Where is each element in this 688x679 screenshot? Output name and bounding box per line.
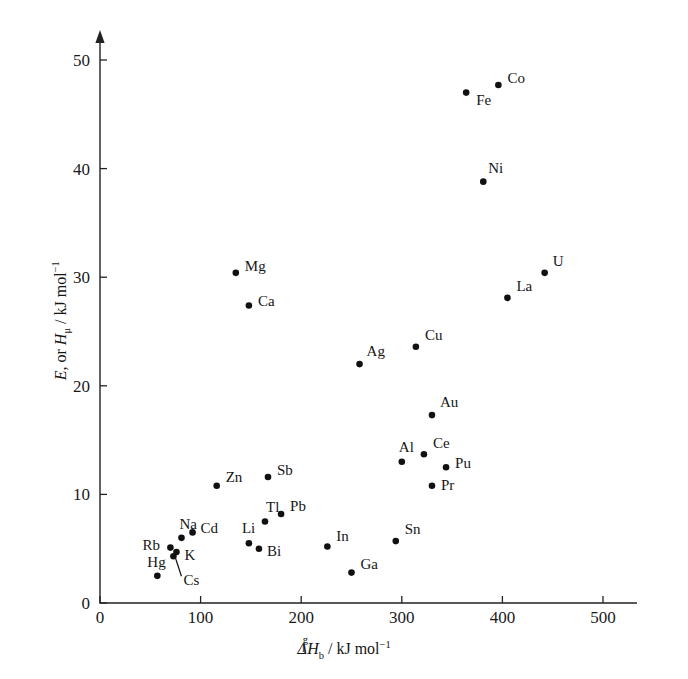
data-points: FeCoNiULaMgCaCuAgAuCeAlPuPrSbZnPbTlCdNaL… bbox=[142, 70, 563, 588]
y-tick-label: 0 bbox=[82, 594, 91, 613]
data-point bbox=[246, 302, 253, 309]
data-point bbox=[246, 540, 253, 547]
data-point-label: U bbox=[553, 253, 564, 269]
data-point-label: Mg bbox=[245, 258, 266, 274]
data-point-label: K bbox=[184, 547, 195, 563]
data-point bbox=[356, 361, 363, 368]
x-tick-label: 100 bbox=[188, 608, 214, 627]
data-point-label: In bbox=[336, 528, 349, 544]
data-point bbox=[262, 518, 269, 525]
y-tick-label: 10 bbox=[73, 485, 90, 504]
label-leader-line bbox=[176, 559, 182, 577]
data-point-label: Ca bbox=[258, 293, 275, 309]
data-point bbox=[265, 474, 272, 481]
x-tick-label: 0 bbox=[96, 608, 105, 627]
data-point bbox=[178, 535, 185, 542]
data-point-label: Li bbox=[242, 520, 255, 536]
y-axis-ticks: 01020304050 bbox=[73, 51, 107, 613]
data-point-label: Fe bbox=[476, 92, 491, 108]
data-point-label: Ag bbox=[367, 343, 386, 359]
data-point bbox=[233, 270, 240, 277]
data-point bbox=[480, 178, 487, 185]
data-point bbox=[463, 89, 470, 96]
data-point-label: Cd bbox=[201, 520, 219, 536]
data-point-label: Ga bbox=[361, 556, 379, 572]
x-tick-label: 400 bbox=[490, 608, 516, 627]
data-point-label: Tl bbox=[266, 499, 279, 515]
x-axis-title: ΔglHb / kJ mol−1 bbox=[0, 639, 688, 661]
data-point bbox=[443, 464, 450, 471]
plot-canvas: 010020030040050001020304050FeCoNiULaMgCa… bbox=[0, 0, 688, 679]
data-point bbox=[392, 538, 399, 545]
data-point bbox=[429, 482, 436, 489]
data-point-label: Ce bbox=[433, 435, 450, 451]
data-point bbox=[167, 544, 174, 551]
data-point bbox=[504, 295, 511, 302]
axes bbox=[95, 30, 637, 603]
data-point bbox=[154, 573, 161, 580]
data-point bbox=[256, 545, 263, 552]
x-tick-label: 300 bbox=[389, 608, 415, 627]
data-point bbox=[413, 343, 420, 350]
data-point bbox=[421, 451, 428, 458]
data-point-label: Au bbox=[440, 394, 459, 410]
y-tick-label: 20 bbox=[73, 377, 90, 396]
data-point-label: Zn bbox=[226, 469, 243, 485]
data-point-label: Co bbox=[507, 70, 525, 86]
x-tick-label: 500 bbox=[590, 608, 616, 627]
x-tick-label: 200 bbox=[288, 608, 314, 627]
data-point-label: Pu bbox=[455, 455, 471, 471]
data-point-label: Hg bbox=[147, 554, 166, 570]
data-point bbox=[348, 569, 355, 576]
data-point-label: Cs bbox=[183, 572, 199, 588]
x-axis-ticks: 0100200300400500 bbox=[96, 596, 616, 627]
data-point bbox=[541, 270, 548, 277]
data-point-label: Ni bbox=[488, 160, 503, 176]
y-tick-label: 40 bbox=[73, 160, 90, 179]
data-point-label: La bbox=[516, 278, 532, 294]
y-tick-label: 30 bbox=[73, 268, 90, 287]
data-point-label: Sn bbox=[405, 521, 421, 537]
data-point-label: Cu bbox=[425, 327, 443, 343]
data-point-label: Na bbox=[179, 516, 197, 532]
data-point-label: Bi bbox=[267, 543, 281, 559]
data-point bbox=[324, 543, 331, 550]
data-point-label: Al bbox=[399, 439, 414, 455]
data-point bbox=[429, 412, 436, 419]
data-point-label: Pr bbox=[441, 477, 454, 493]
y-tick-label: 50 bbox=[73, 51, 90, 70]
data-point-label: Sb bbox=[277, 462, 293, 478]
y-axis-title: E, or Hμ / kJ mol−1 bbox=[50, 41, 72, 601]
data-point bbox=[213, 482, 220, 489]
data-point-label: Rb bbox=[142, 537, 160, 553]
data-point bbox=[170, 553, 177, 560]
data-point bbox=[399, 459, 406, 466]
y-axis-arrow bbox=[95, 30, 104, 43]
scatter-plot-figure: 010020030040050001020304050FeCoNiULaMgCa… bbox=[0, 0, 688, 679]
data-point bbox=[495, 82, 502, 89]
data-point-label: Pb bbox=[290, 498, 306, 514]
